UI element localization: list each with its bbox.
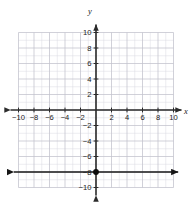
x-tick-label--4: −4 [61, 113, 70, 122]
x-tick-label-6: 6 [140, 113, 144, 122]
plotted-point-marker [93, 169, 99, 175]
y-tick-label--6: −6 [83, 152, 92, 161]
coordinate-plane-svg: −10−8−6−4−2246810 108642−2−4−6−8−10 x y [0, 0, 193, 207]
y-tick-label-4: 4 [87, 75, 91, 84]
x-tick-label-2: 2 [109, 113, 113, 122]
y-axis-label: y [87, 6, 92, 16]
x-tick-label-10: 10 [169, 113, 177, 122]
x-tick-label-4: 4 [125, 113, 129, 122]
y-tick-label--10: −10 [79, 183, 92, 192]
y-tick-label--2: −2 [83, 121, 92, 130]
x-axis-label: x [183, 106, 188, 116]
y-tick-label--8: −8 [83, 168, 92, 177]
x-tick-label--6: −6 [45, 113, 54, 122]
coordinate-plane-figure: −10−8−6−4−2246810 108642−2−4−6−8−10 x y [0, 0, 193, 207]
y-tick-label-8: 8 [87, 44, 91, 53]
y-tick-label-2: 2 [87, 90, 91, 99]
x-tick-label-8: 8 [156, 113, 160, 122]
y-tick-label-10: 10 [83, 28, 91, 37]
x-tick-label--10: −10 [12, 113, 25, 122]
x-tick-label--8: −8 [30, 113, 39, 122]
y-tick-label--4: −4 [83, 137, 92, 146]
y-tick-label-6: 6 [87, 59, 91, 68]
